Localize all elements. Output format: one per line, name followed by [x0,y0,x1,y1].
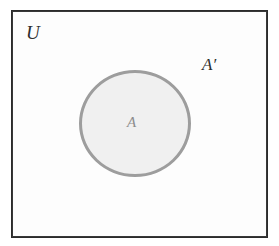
venn-diagram-figure: U A′ A [0,0,279,246]
set-a-complement-label: A′ [202,56,216,73]
set-a-label: A [127,115,136,130]
universal-set-label: U [26,23,40,42]
